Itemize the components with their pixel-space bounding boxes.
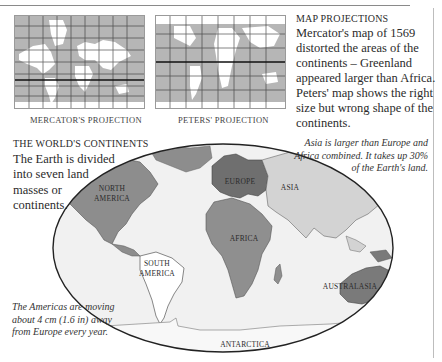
worlds-continents-section: The world's continents The Earth is divi… — [13, 136, 153, 214]
label-europe: Europe — [225, 177, 256, 186]
label-south-america-1: South — [144, 259, 170, 268]
worlds-continents-body: The Earth is divided into seven land mas… — [13, 152, 118, 214]
europe — [212, 154, 268, 198]
label-asia: Asia — [281, 183, 300, 192]
label-antarctica: Antarctica — [220, 340, 270, 349]
asia-note: Asia is larger than Europe and Africa co… — [288, 137, 428, 175]
americas-note: The Americas are moving about 4 cm (1.6 … — [12, 301, 122, 339]
label-australasia: Australasia — [323, 282, 378, 291]
label-africa: Africa — [230, 234, 259, 243]
label-south-america-2: America — [139, 269, 175, 278]
worlds-continents-heading: The world's continents — [13, 136, 153, 152]
